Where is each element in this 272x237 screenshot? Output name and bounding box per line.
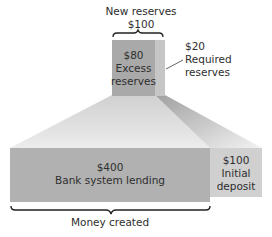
lending-fan xyxy=(10,95,210,148)
required-reserves-pointer xyxy=(166,60,183,69)
bank-lending-text: Bank system lending xyxy=(10,174,210,187)
new-reserves-title: New reserves xyxy=(96,5,186,18)
diagram-graphics xyxy=(0,0,272,237)
initial-deposit-line1: Initial xyxy=(210,167,262,180)
required-reserves-line1: Required xyxy=(185,53,235,66)
required-reserves-line2: reserves xyxy=(185,66,235,79)
new-reserves-amount: $100 xyxy=(96,18,186,31)
bank-lending-label: $400 Bank system lending xyxy=(10,161,210,187)
new-reserves-brace xyxy=(113,30,163,37)
excess-reserves-amount: $80 xyxy=(110,49,157,62)
required-reserves-label: $20 Required reserves xyxy=(185,40,235,79)
bank-lending-amount: $400 xyxy=(10,161,210,174)
excess-reserves-line1: Excess xyxy=(110,62,157,75)
money-created-brace xyxy=(11,206,210,214)
excess-reserves-line2: reserves xyxy=(110,75,157,88)
initial-deposit-label: $100 Initial deposit xyxy=(210,154,262,193)
initial-deposit-amount: $100 xyxy=(210,154,262,167)
new-reserves-label: New reserves $100 xyxy=(96,5,186,31)
excess-reserves-label: $80 Excess reserves xyxy=(110,49,157,88)
initial-deposit-line2: deposit xyxy=(210,180,262,193)
required-reserves-amount: $20 xyxy=(185,40,235,53)
money-created-label: Money created xyxy=(60,216,160,229)
